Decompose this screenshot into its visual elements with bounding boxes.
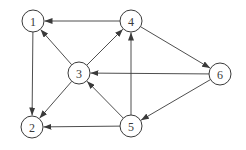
- edge-6-to-5: [141, 80, 211, 121]
- edge-5-to-3: [87, 81, 123, 118]
- node-4: 4: [120, 10, 142, 32]
- node-6: 6: [209, 63, 231, 85]
- node-label: 3: [76, 67, 82, 81]
- node-2: 2: [21, 116, 43, 138]
- edge-3-to-4: [87, 29, 123, 65]
- node-1: 1: [22, 10, 44, 32]
- node-label: 6: [217, 68, 223, 82]
- edge-1-to-2: [32, 32, 33, 116]
- edge-5-to-2: [43, 126, 120, 127]
- node-label: 4: [128, 15, 134, 29]
- node-5: 5: [120, 115, 142, 137]
- directed-graph: 123456: [0, 0, 246, 150]
- edge-6-to-3: [90, 73, 209, 74]
- edge-4-to-6: [140, 27, 210, 68]
- node-label: 2: [29, 121, 35, 135]
- node-label: 1: [30, 15, 36, 29]
- edges-layer: [32, 21, 210, 127]
- node-3: 3: [68, 62, 90, 84]
- edge-3-to-2: [40, 81, 72, 118]
- edge-3-to-1: [41, 30, 72, 65]
- node-label: 5: [128, 120, 134, 134]
